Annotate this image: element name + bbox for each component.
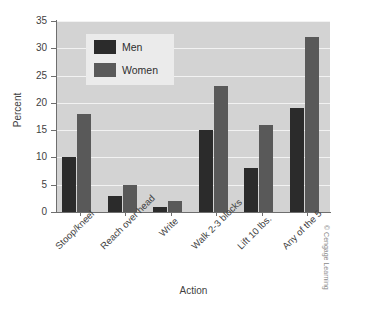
y-axis-tick (51, 103, 57, 104)
legend-label-women: Women (122, 64, 158, 76)
bar-men (108, 196, 122, 212)
x-axis-title: Action (57, 286, 330, 296)
x-axis-category-label: Lift 10 lbs. (236, 216, 271, 251)
y-axis-tick-label: 35 (36, 16, 47, 26)
y-axis-tick-label: 10 (36, 152, 47, 162)
bar-women (259, 125, 273, 212)
y-axis-tick-label: 30 (36, 43, 47, 53)
y-axis-tick (51, 212, 57, 213)
x-axis-category-label: Write (145, 216, 180, 251)
bar-men (244, 168, 258, 212)
x-axis-category-label: Walk 2-3 blocks (190, 216, 225, 251)
bar-men (199, 130, 213, 212)
x-axis-line (56, 212, 331, 213)
y-axis-tick (51, 76, 57, 77)
legend-swatch-men (94, 40, 116, 54)
y-axis-tick (51, 21, 57, 22)
y-axis-tick-label: 20 (36, 98, 47, 108)
y-axis-tick-label: 25 (36, 71, 47, 81)
y-axis-tick (51, 185, 57, 186)
bar-women (168, 201, 182, 212)
x-axis-category-label: Stoop/kneel (54, 216, 89, 251)
y-axis-tick-label: 15 (36, 125, 47, 135)
bar-men (62, 157, 76, 212)
bar-chart-figure: Percent Action Men Women © Cengage Learn… (0, 0, 381, 310)
bar-women (305, 37, 319, 212)
x-axis-category-label: Any of the 5 (281, 216, 316, 251)
bar-women (214, 86, 228, 212)
chart-legend: Men Women (86, 34, 174, 85)
legend-swatch-women (94, 63, 116, 77)
y-axis-tick (51, 48, 57, 49)
y-axis-tick (51, 157, 57, 158)
bar-men (290, 108, 304, 212)
y-axis-tick-label: 0 (41, 207, 47, 217)
y-axis-tick (51, 130, 57, 131)
x-axis-category-label: Reach over head (99, 216, 134, 251)
gridline (57, 21, 330, 22)
gridline (57, 103, 330, 104)
copyright-credit: © Cengage Learning (322, 225, 330, 290)
y-axis-title: Percent (13, 75, 23, 145)
legend-label-men: Men (122, 41, 142, 53)
y-axis-tick-label: 5 (41, 180, 47, 190)
bar-women (77, 114, 91, 212)
